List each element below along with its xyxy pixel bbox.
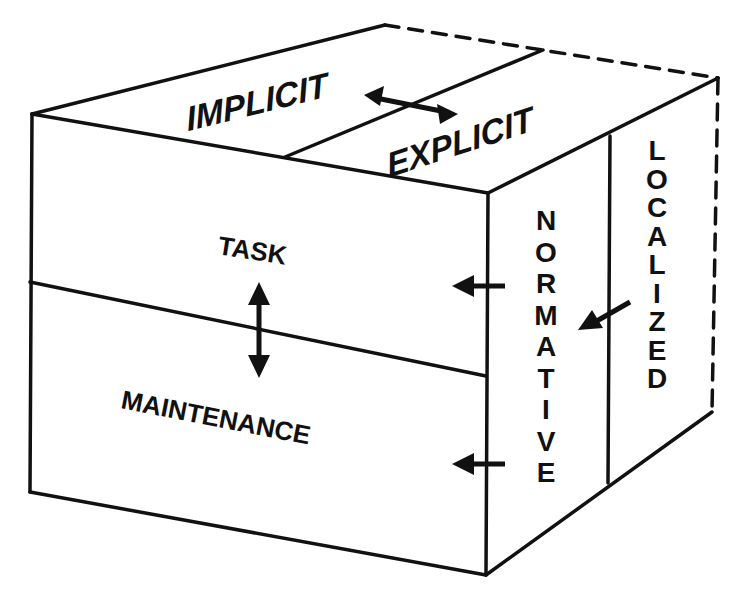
svg-text:C: C: [647, 192, 667, 223]
normative-label: NORMATIVE: [534, 205, 557, 488]
svg-text:A: A: [536, 331, 556, 362]
svg-text:L: L: [648, 249, 665, 280]
maintenance-label: MAINTENANCE: [119, 384, 313, 450]
svg-text:E: E: [648, 335, 667, 366]
svg-text:D: D: [647, 363, 667, 394]
svg-text:N: N: [536, 205, 556, 236]
implicit-label: IMPLICIT: [184, 64, 332, 138]
side-back-edge-dashed: [712, 78, 718, 412]
front-left-edge: [30, 114, 32, 492]
normative-localized-divider: [608, 136, 610, 483]
svg-text:L: L: [648, 135, 665, 166]
svg-text:A: A: [647, 221, 667, 252]
svg-text:O: O: [646, 164, 668, 195]
svg-text:I: I: [542, 394, 550, 425]
explicit-label: EXPLICIT: [384, 98, 539, 184]
top-back-edge-dashed: [385, 25, 718, 78]
svg-text:R: R: [536, 268, 556, 299]
side-bottom-edge: [486, 412, 712, 575]
svg-text:V: V: [537, 426, 556, 457]
front-right-edge: [486, 193, 488, 575]
svg-text:M: M: [534, 300, 557, 331]
svg-text:O: O: [535, 237, 557, 268]
svg-text:E: E: [537, 457, 556, 488]
cube-diagram: IMPLICIT EXPLICIT TASK MAINTENANCE NORMA…: [0, 0, 745, 602]
svg-text:Z: Z: [648, 306, 665, 337]
left-arrow-icon-lower: [452, 453, 505, 475]
svg-text:I: I: [653, 278, 661, 309]
task-label: TASK: [216, 230, 289, 270]
left-arrow-icon-upper: [452, 275, 505, 297]
front-bottom-edge: [30, 492, 486, 575]
svg-text:T: T: [537, 363, 554, 394]
diagonal-arrow-icon: [578, 302, 630, 330]
localized-label: LOCALIZED: [646, 135, 668, 394]
